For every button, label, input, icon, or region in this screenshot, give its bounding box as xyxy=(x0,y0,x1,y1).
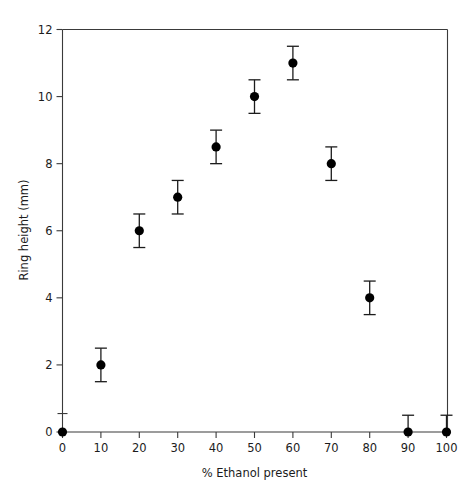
marker-10 xyxy=(96,360,105,369)
x-tick-label-90: 90 xyxy=(401,441,416,455)
y-tick-label-0: 0 xyxy=(45,425,52,439)
data-point-30 xyxy=(172,180,184,214)
marker-0 xyxy=(58,427,67,436)
y-tick-label-2: 2 xyxy=(45,358,52,372)
data-series-errorbars xyxy=(58,46,453,436)
x-tick-label-0: 0 xyxy=(59,441,66,455)
x-tick-label-10: 10 xyxy=(94,441,109,455)
x-tick-label-80: 80 xyxy=(362,441,377,455)
x-tick-label-40: 40 xyxy=(209,441,224,455)
data-point-80 xyxy=(364,281,376,315)
data-point-100 xyxy=(441,415,453,436)
x-tick-label-50: 50 xyxy=(247,441,262,455)
data-point-50 xyxy=(249,80,261,114)
data-point-70 xyxy=(325,147,337,181)
y-tick-label-8: 8 xyxy=(45,157,52,171)
marker-60 xyxy=(288,58,297,67)
plot-frame xyxy=(63,30,450,433)
x-tick-label-100: 100 xyxy=(436,441,458,455)
y-axis-tick-labels: 024681012 xyxy=(38,23,53,440)
data-point-90 xyxy=(402,415,414,436)
y-tick-label-4: 4 xyxy=(45,291,52,305)
marker-80 xyxy=(365,293,374,302)
y-tick-label-6: 6 xyxy=(45,224,52,238)
x-tick-label-30: 30 xyxy=(170,441,185,455)
x-tick-label-70: 70 xyxy=(324,441,339,455)
ring-height-vs-ethanol-scatter-plot: 024681012 0102030405060708090100 Ring he… xyxy=(0,0,471,493)
marker-40 xyxy=(212,142,221,151)
data-point-60 xyxy=(287,46,299,80)
y-tick-label-10: 10 xyxy=(38,90,53,104)
data-point-40 xyxy=(210,130,222,164)
chart-container: 024681012 0102030405060708090100 Ring he… xyxy=(0,0,471,493)
y-axis-title: Ring height (mm) xyxy=(17,179,31,280)
data-point-0 xyxy=(58,427,67,436)
x-axis-title: % Ethanol present xyxy=(202,466,308,480)
marker-70 xyxy=(327,159,336,168)
data-point-20 xyxy=(133,214,145,248)
x-axis-ticks xyxy=(63,432,447,438)
x-tick-label-20: 20 xyxy=(132,441,147,455)
x-axis-tick-labels: 0102030405060708090100 xyxy=(59,441,458,455)
marker-20 xyxy=(135,226,144,235)
x-tick-label-60: 60 xyxy=(286,441,301,455)
marker-90 xyxy=(404,427,413,436)
marker-100 xyxy=(442,427,451,436)
marker-50 xyxy=(250,92,259,101)
marker-30 xyxy=(173,193,182,202)
y-tick-label-12: 12 xyxy=(38,23,53,37)
data-point-10 xyxy=(95,348,107,382)
